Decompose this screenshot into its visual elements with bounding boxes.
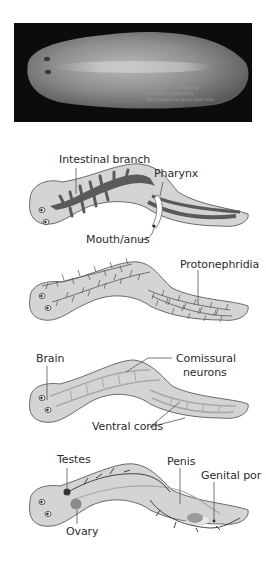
panel-digestive: Intestinal branch Pharynx Mouth/anus [0, 140, 266, 255]
label-testes: Testes [57, 454, 91, 466]
panel-excretory: Protonephridia [0, 250, 266, 345]
label-mouth-anus: Mouth/anus [86, 234, 150, 246]
label-neurons: neurons [183, 367, 227, 379]
panel-reproductive: Testes Penis Genital por Ovary [0, 440, 266, 564]
label-penis: Penis [167, 456, 195, 468]
photo-caption-line: http://planaria.neuro.utah.edu [146, 97, 214, 102]
label-comissural: Comissural [176, 353, 236, 365]
label-protonephridia: Protonephridia [180, 259, 259, 271]
label-ovary: Ovary [66, 526, 98, 538]
genital-pore-icon [213, 520, 216, 523]
planarian-photo: Dugesia Schmidtea polychroa http://plana… [14, 23, 252, 122]
label-intestinal-branch: Intestinal branch [59, 154, 150, 166]
photo-caption-line: Dugesia [180, 85, 198, 90]
ovary-icon [71, 499, 82, 510]
label-pharynx: Pharynx [154, 168, 198, 180]
panel-nervous: Brain Comissural neurons Ventral cords [0, 340, 266, 445]
photo-caption-line: Schmidtea polychroa [146, 91, 194, 96]
label-ventral-cords: Ventral cords [92, 421, 163, 433]
eyespot-icon [45, 70, 51, 74]
label-brain: Brain [36, 353, 64, 365]
label-genital-pore: Genital por [201, 470, 261, 482]
eyespot-icon [44, 57, 50, 61]
